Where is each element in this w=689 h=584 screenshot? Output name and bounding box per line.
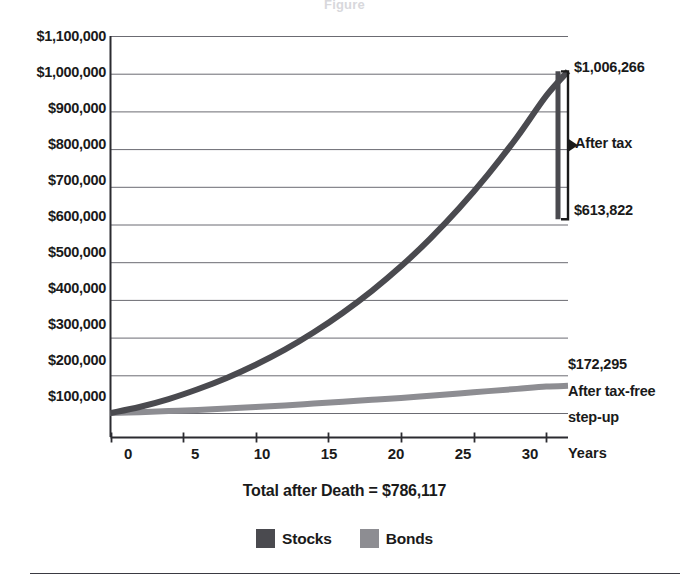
bonds-step-up-label-line1: After tax-free (568, 383, 655, 399)
peak-value-label: $1,006,266 (574, 59, 645, 75)
after-tax-label: After tax (575, 135, 632, 151)
total-after-death-label: Total after Death = $786,117 (0, 482, 689, 500)
chart-figure: Figure $1,100,000 $1,000,000 $900,000 $8… (0, 0, 689, 584)
legend: Stocks Bonds (0, 529, 689, 548)
bonds-series-line (111, 386, 569, 413)
x-tick-label-30: 30 (510, 445, 550, 462)
stocks-series-line (111, 71, 569, 413)
legend-label-stocks: Stocks (282, 530, 332, 548)
x-tick-label-0: 0 (108, 445, 148, 462)
x-tick-label-5: 5 (175, 445, 215, 462)
x-tick-label-15: 15 (309, 445, 349, 462)
gridlines (111, 37, 569, 414)
legend-swatch-stocks (256, 529, 275, 548)
after-tax-bracket (561, 71, 568, 219)
x-tick-label-20: 20 (376, 445, 416, 462)
legend-label-bonds: Bonds (386, 530, 433, 548)
legend-item-bonds: Bonds (360, 529, 433, 548)
legend-swatch-bonds (360, 529, 379, 548)
bonds-value-label: $172,295 (568, 356, 627, 372)
x-axis-title: Years (568, 445, 607, 461)
footer-divider (30, 573, 680, 574)
x-tick-label-10: 10 (242, 445, 282, 462)
legend-item-stocks: Stocks (256, 529, 332, 548)
after-tax-value-label: $613,822 (574, 202, 633, 218)
x-tick-label-25: 25 (443, 445, 483, 462)
bonds-step-up-label-line2: step-up (568, 409, 619, 425)
